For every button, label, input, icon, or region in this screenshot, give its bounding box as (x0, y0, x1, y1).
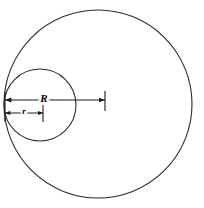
outer-circle (4, 10, 192, 198)
dimension-label-R-text: R (39, 92, 47, 104)
inner-circle (4, 69, 76, 141)
dimension-label-r-text: r (22, 106, 26, 116)
figure-canvas: R R r r (0, 0, 204, 208)
geometry-diagram: R R r r (0, 0, 204, 208)
